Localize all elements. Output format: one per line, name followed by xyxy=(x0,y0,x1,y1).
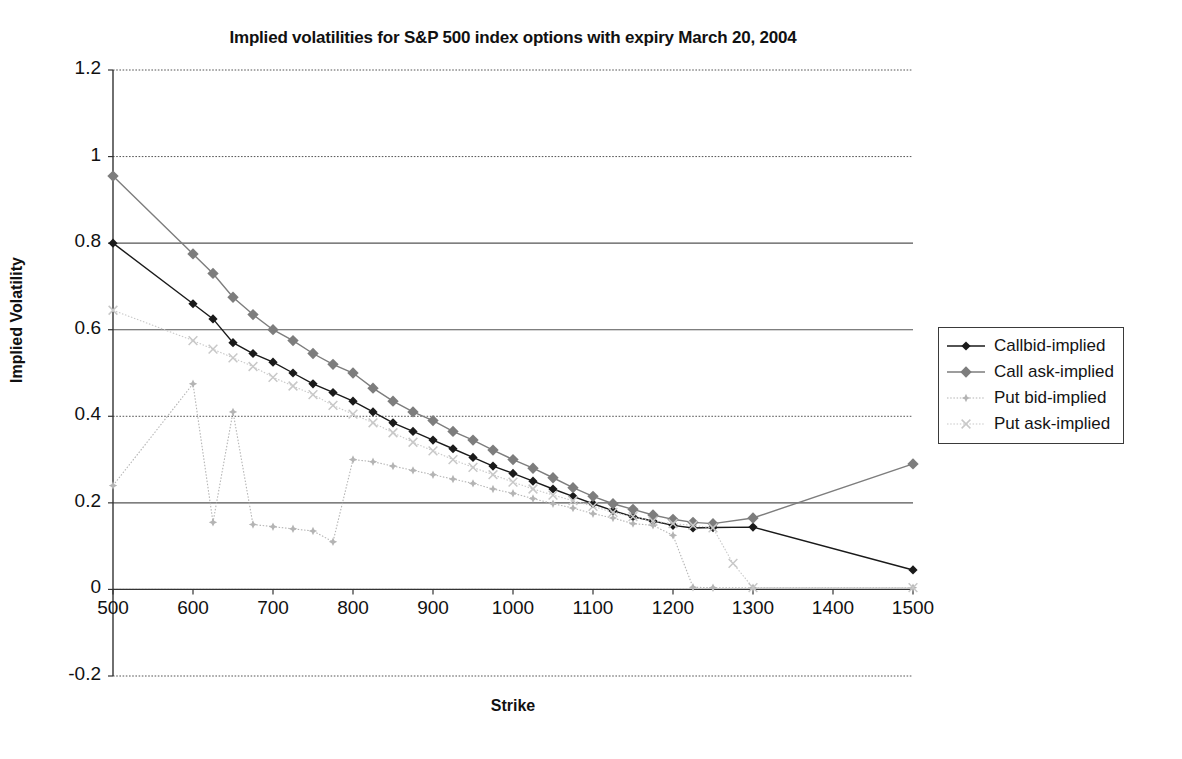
data-point-marker xyxy=(748,522,757,531)
data-point-marker xyxy=(289,525,297,533)
data-point-marker xyxy=(449,455,458,464)
data-point-marker xyxy=(549,499,557,507)
data-point-marker xyxy=(408,427,417,436)
data-point-marker xyxy=(249,520,257,528)
legend-swatch-cross-icon xyxy=(945,415,987,433)
data-point-marker xyxy=(267,324,278,335)
x-tick-label: 1000 xyxy=(473,597,553,619)
data-point-marker xyxy=(587,491,598,502)
data-point-marker xyxy=(489,485,497,493)
series-line xyxy=(113,310,913,587)
data-point-marker xyxy=(508,469,517,478)
x-tick-label: 1400 xyxy=(793,597,873,619)
data-point-marker xyxy=(369,458,377,466)
chart-legend: Callbid-impliedCall ask-impliedPut bid-i… xyxy=(938,327,1124,444)
data-point-marker xyxy=(529,494,537,502)
data-point-marker xyxy=(229,408,237,416)
data-point-marker xyxy=(349,455,357,463)
x-tick-label: 1200 xyxy=(633,597,713,619)
data-point-marker xyxy=(961,341,970,350)
data-point-marker xyxy=(349,410,358,419)
legend-label: Callbid-implied xyxy=(994,336,1106,356)
data-point-marker xyxy=(689,583,697,591)
data-point-marker xyxy=(529,485,538,494)
data-point-marker xyxy=(547,472,558,483)
data-point-marker xyxy=(908,565,917,574)
data-point-marker xyxy=(488,461,497,470)
data-point-marker xyxy=(429,447,438,456)
legend-label: Put ask-implied xyxy=(994,414,1110,434)
data-point-marker xyxy=(229,353,238,362)
y-tick-label: 0.4 xyxy=(31,403,101,425)
data-point-marker xyxy=(248,349,257,358)
data-point-marker xyxy=(487,444,498,455)
legend-item: Call ask-implied xyxy=(945,359,1114,385)
data-point-marker xyxy=(369,418,378,427)
data-point-marker xyxy=(329,401,338,410)
data-point-marker xyxy=(729,559,738,568)
x-tick-label: 600 xyxy=(153,597,233,619)
series-3 xyxy=(109,380,917,592)
chart-figure: Implied volatilities for S&P 500 index o… xyxy=(0,0,1182,759)
data-point-marker xyxy=(962,394,970,402)
data-point-marker xyxy=(509,489,517,497)
data-point-marker xyxy=(249,362,258,371)
y-tick-label: 1.2 xyxy=(31,57,101,79)
data-point-marker xyxy=(962,420,971,429)
legend-item: Callbid-implied xyxy=(945,333,1114,359)
x-tick-label: 700 xyxy=(233,597,313,619)
data-point-marker xyxy=(409,466,417,474)
data-point-marker xyxy=(449,475,457,483)
data-point-marker xyxy=(407,406,418,417)
data-point-marker xyxy=(367,382,378,393)
data-point-marker xyxy=(308,379,317,388)
data-point-marker xyxy=(368,407,377,416)
data-point-marker xyxy=(469,463,478,472)
series-1 xyxy=(108,239,917,575)
data-point-marker xyxy=(389,462,397,470)
data-point-marker xyxy=(388,418,397,427)
x-tick-label: 1100 xyxy=(553,597,633,619)
data-point-marker xyxy=(209,518,217,526)
data-point-marker xyxy=(467,434,478,445)
y-tick-label: 0.8 xyxy=(31,230,101,252)
y-tick-label: 0.6 xyxy=(31,317,101,339)
legend-label: Put bid-implied xyxy=(994,388,1106,408)
data-point-marker xyxy=(589,509,597,517)
data-point-marker xyxy=(389,428,398,437)
legend-label: Call ask-implied xyxy=(994,362,1114,382)
legend-item: Put bid-implied xyxy=(945,385,1114,411)
data-point-marker xyxy=(288,368,297,377)
y-tick-label: 0 xyxy=(31,576,101,598)
data-point-marker xyxy=(447,426,458,437)
data-point-marker xyxy=(409,438,418,447)
data-point-marker xyxy=(307,348,318,359)
data-point-marker xyxy=(469,479,477,487)
data-point-marker xyxy=(348,397,357,406)
data-point-marker xyxy=(709,583,717,591)
legend-item: Put ask-implied xyxy=(945,411,1114,437)
data-point-marker xyxy=(569,504,577,512)
data-point-marker xyxy=(328,388,337,397)
data-point-marker xyxy=(309,527,317,535)
data-point-marker xyxy=(567,482,578,493)
series-4 xyxy=(109,306,918,592)
data-point-marker xyxy=(347,367,358,378)
data-point-marker xyxy=(960,366,971,377)
data-point-marker xyxy=(327,359,338,370)
x-tick-label: 500 xyxy=(73,597,153,619)
data-point-marker xyxy=(429,470,437,478)
legend-swatch-star-icon xyxy=(945,389,987,407)
data-point-marker xyxy=(448,444,457,453)
data-point-marker xyxy=(309,390,318,399)
data-point-marker xyxy=(269,522,277,530)
data-point-marker xyxy=(289,382,298,391)
x-tick-label: 1500 xyxy=(873,597,953,619)
data-point-marker xyxy=(387,395,398,406)
y-tick-label: -0.2 xyxy=(31,663,101,685)
y-tick-label: 1 xyxy=(31,144,101,166)
data-point-marker xyxy=(527,463,538,474)
x-tick-label: 800 xyxy=(313,597,393,619)
data-point-marker xyxy=(269,373,278,382)
data-point-marker xyxy=(528,477,537,486)
